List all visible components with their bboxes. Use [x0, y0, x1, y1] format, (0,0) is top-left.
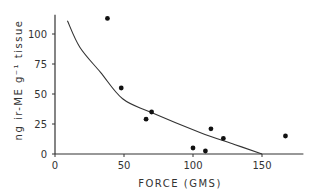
y-tick-label: 25: [34, 119, 47, 130]
x-tick-label: 100: [183, 160, 202, 171]
y-tick-label: 100: [28, 29, 47, 40]
data-point: [105, 16, 110, 21]
data-point: [144, 117, 149, 122]
data-point: [119, 86, 124, 91]
data-point: [203, 149, 208, 154]
x-tick-label: 150: [252, 160, 271, 171]
data-point: [209, 126, 214, 131]
y-ticks: 0255075100: [28, 29, 55, 160]
x-axis-label: FORCE (GMS): [138, 178, 222, 189]
data-point: [149, 110, 154, 115]
axes: [55, 15, 303, 154]
x-tick-label: 0: [52, 160, 58, 171]
data-point: [191, 146, 196, 151]
y-tick-label: 50: [34, 89, 47, 100]
data-point: [283, 134, 288, 139]
y-axis-label: ng ir-ME g⁻¹ tissue: [13, 20, 24, 141]
chart: 0255075100 050100150 FORCE (GMS) ng ir-M…: [0, 0, 311, 196]
y-tick-label: 0: [41, 149, 47, 160]
data-points: [105, 16, 288, 153]
x-ticks: 050100150: [52, 154, 272, 171]
fitted-curve: [67, 21, 262, 154]
y-tick-label: 75: [34, 59, 47, 70]
fitted-curve-group: [67, 21, 262, 154]
data-point: [221, 136, 226, 141]
x-tick-label: 50: [118, 160, 131, 171]
